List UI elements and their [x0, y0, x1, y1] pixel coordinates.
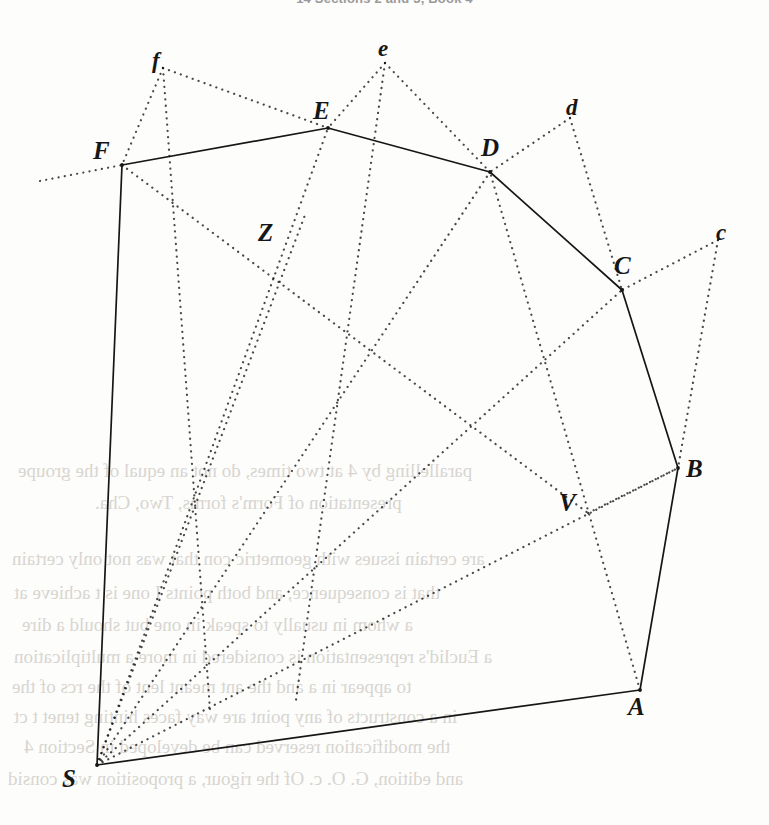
edge-C-B — [622, 290, 678, 468]
vertex-dot-C — [620, 288, 624, 292]
vertex-dot-A — [638, 688, 642, 692]
ray-S-D — [97, 172, 490, 765]
line-F-V — [122, 165, 588, 513]
edge-E-D — [328, 128, 490, 172]
ray-S-C — [97, 290, 622, 765]
ray-S-E — [97, 128, 328, 765]
vertex-dot-B — [676, 466, 680, 470]
vertex-dot-E — [326, 126, 330, 130]
extension-f-through-F-down — [163, 68, 210, 710]
line-e-E — [328, 63, 385, 128]
vertex-dot-F — [120, 163, 124, 167]
vertex-dot-D — [488, 170, 492, 174]
edge-F-E — [122, 128, 328, 165]
line-d-D — [490, 118, 570, 172]
edge-B-A — [640, 468, 678, 690]
line-d-C — [570, 118, 622, 290]
vertex-dot-S — [95, 763, 99, 767]
line-c-C — [622, 240, 718, 290]
ray-S-B — [97, 468, 678, 765]
line-f-E — [163, 68, 328, 128]
solid-polygon-edges — [97, 128, 678, 765]
extension-left-of-F — [40, 165, 122, 181]
dotted-construction-lines — [40, 63, 718, 765]
edge-S-F — [97, 165, 122, 765]
geometric-figure — [0, 0, 769, 825]
extension-e-through-E-down — [296, 63, 385, 700]
line-c-B — [678, 240, 718, 468]
line-A-D — [490, 172, 640, 690]
figure-page: 14 Sections 2 and 3, Book 4 parallelling… — [0, 0, 769, 825]
line-e-D — [385, 63, 490, 172]
line-f-F — [122, 68, 163, 165]
vertex-dots — [95, 126, 680, 767]
edge-D-C — [490, 172, 622, 290]
ray-S-Z — [97, 215, 305, 765]
edge-A-S — [97, 690, 640, 765]
